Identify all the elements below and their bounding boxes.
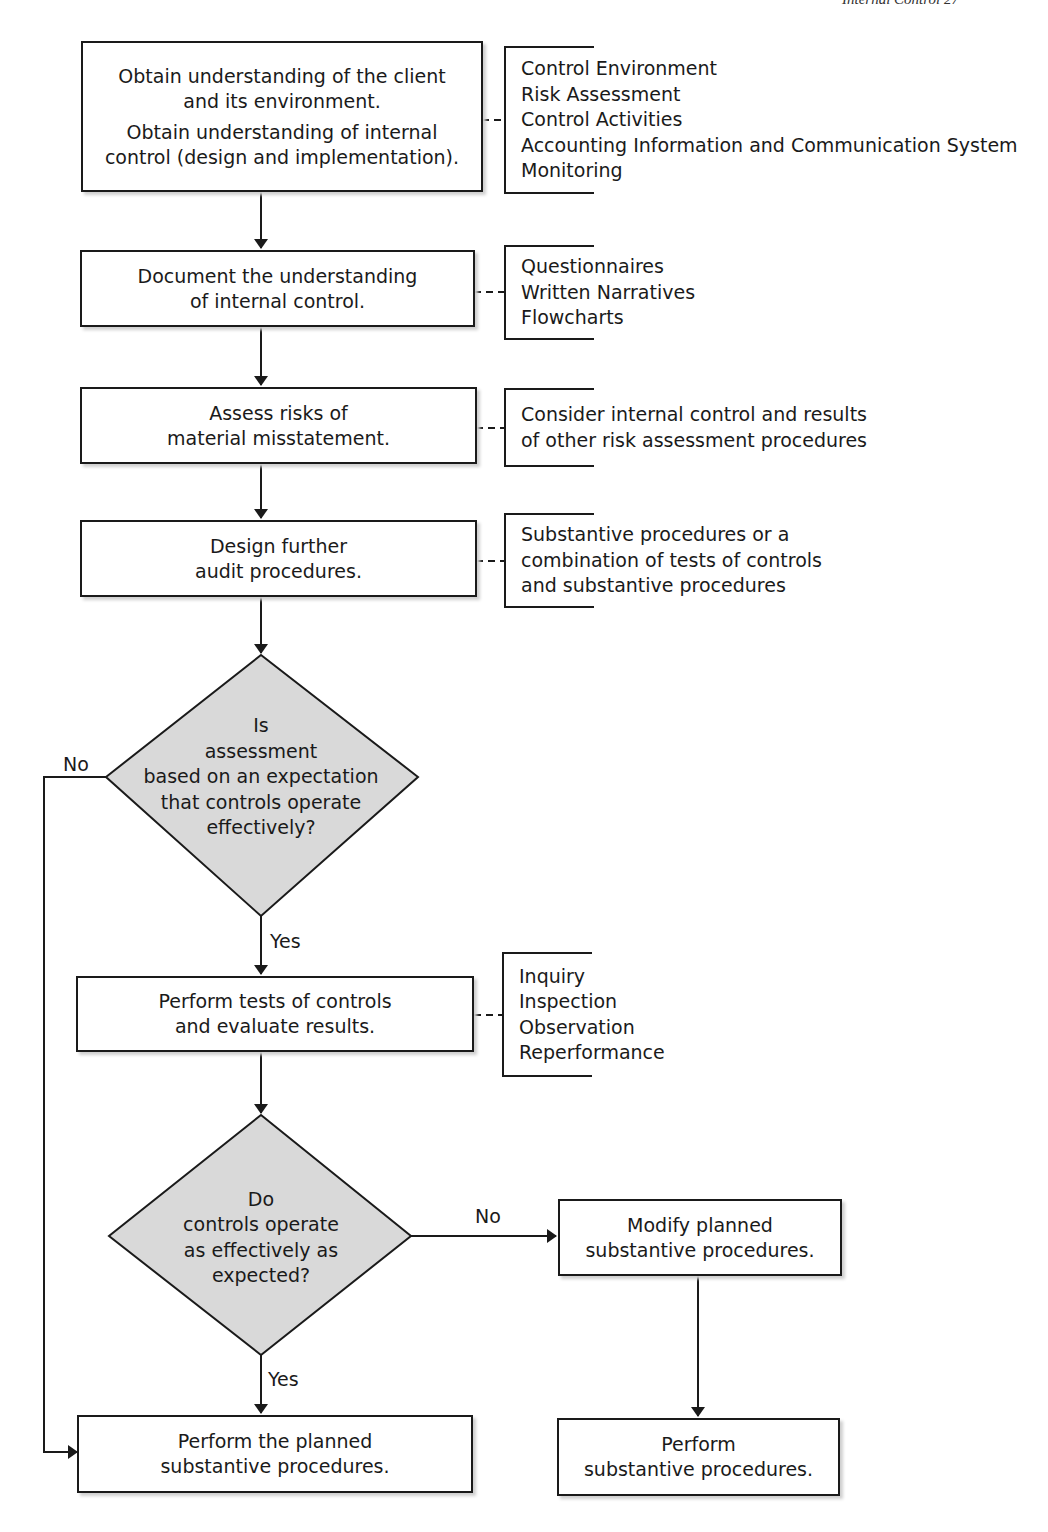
- step-perform-procedures: Perform substantive procedures.: [557, 1418, 840, 1496]
- decision-expectation-question: Is assessment based on an expectation th…: [141, 712, 381, 842]
- step-modify-planned-procedures: Modify planned substantive procedures.: [558, 1199, 842, 1276]
- note-risk-considerations: Consider internal control and results of…: [504, 388, 594, 467]
- step-text: Obtain understanding of the client: [118, 64, 445, 89]
- step-text: Perform tests of controls: [158, 989, 391, 1014]
- decision-text: that controls operate: [161, 790, 361, 816]
- decision-text: expected?: [212, 1263, 310, 1289]
- step-assess-risks: Assess risks of material misstatement.: [80, 387, 477, 464]
- note-item: and substantive procedures: [521, 573, 594, 599]
- step-text: Obtain understanding of internal: [127, 120, 438, 145]
- step-text: material misstatement.: [167, 426, 390, 451]
- note-item: Flowcharts: [521, 305, 594, 331]
- note-item: Written Narratives: [521, 280, 594, 306]
- step-text: Design further: [210, 534, 347, 559]
- step-text: and evaluate results.: [175, 1014, 375, 1039]
- decision-text: as effectively as: [184, 1238, 338, 1264]
- decision-text: assessment: [205, 739, 318, 765]
- step-text: Assess risks of: [209, 401, 348, 426]
- note-item: Accounting Information and Communication…: [521, 133, 594, 159]
- note-item: Reperformance: [519, 1040, 592, 1066]
- step-text: Perform: [661, 1432, 736, 1457]
- decision-operate-yes-label: Yes: [268, 1368, 299, 1390]
- decision-text: Do: [248, 1187, 274, 1213]
- note-item: combination of tests of controls: [521, 548, 594, 574]
- step-perform-planned-procedures: Perform the planned substantive procedur…: [77, 1415, 473, 1493]
- step-text: Document the understanding: [138, 264, 418, 289]
- step-understand-client: Obtain understanding of the client and i…: [81, 41, 483, 192]
- step-text: substantive procedures.: [160, 1454, 389, 1479]
- note-item: Substantive procedures or a: [521, 522, 594, 548]
- note-item: Inspection: [519, 989, 592, 1015]
- note-item: Monitoring: [521, 158, 594, 184]
- decision-expectation-yes-label: Yes: [270, 930, 301, 952]
- note-item: Questionnaires: [521, 254, 594, 280]
- decision-text: based on an expectation: [143, 764, 378, 790]
- note-item: Control Environment: [521, 56, 594, 82]
- decision-text: Is: [253, 713, 269, 739]
- note-item: Consider internal control and results: [521, 402, 594, 428]
- note-item: of other risk assessment procedures: [521, 428, 594, 454]
- step-design-procedures: Design further audit procedures.: [80, 520, 477, 597]
- step-text: substantive procedures.: [585, 1238, 814, 1263]
- step-text: Modify planned: [627, 1213, 773, 1238]
- note-item: Risk Assessment: [521, 82, 594, 108]
- step-text: audit procedures.: [195, 559, 362, 584]
- step-text: and its environment.: [183, 89, 381, 114]
- note-item: Control Activities: [521, 107, 594, 133]
- decision-text: effectively?: [206, 815, 315, 841]
- note-procedure-options: Substantive procedures or a combination …: [504, 513, 594, 608]
- note-documentation-methods: Questionnaires Written Narratives Flowch…: [504, 245, 594, 340]
- note-item: Inquiry: [519, 964, 592, 990]
- step-perform-tests-of-controls: Perform tests of controls and evaluate r…: [76, 976, 474, 1052]
- note-internal-control-components: Control Environment Risk Assessment Cont…: [504, 46, 594, 194]
- note-test-methods: Inquiry Inspection Observation Reperform…: [502, 952, 592, 1077]
- step-text: substantive procedures.: [584, 1457, 813, 1482]
- step-text: Perform the planned: [178, 1429, 373, 1454]
- decision-text: controls operate: [183, 1212, 339, 1238]
- note-item: Observation: [519, 1015, 592, 1041]
- decision-operate-no-label: No: [475, 1205, 501, 1227]
- step-text: of internal control.: [190, 289, 365, 314]
- decision-expectation-no-label: No: [63, 753, 89, 775]
- step-document-understanding: Document the understanding of internal c…: [80, 250, 475, 327]
- decision-operate-question: Do controls operate as effectively as ex…: [171, 1185, 351, 1290]
- step-text: control (design and implementation).: [105, 145, 459, 170]
